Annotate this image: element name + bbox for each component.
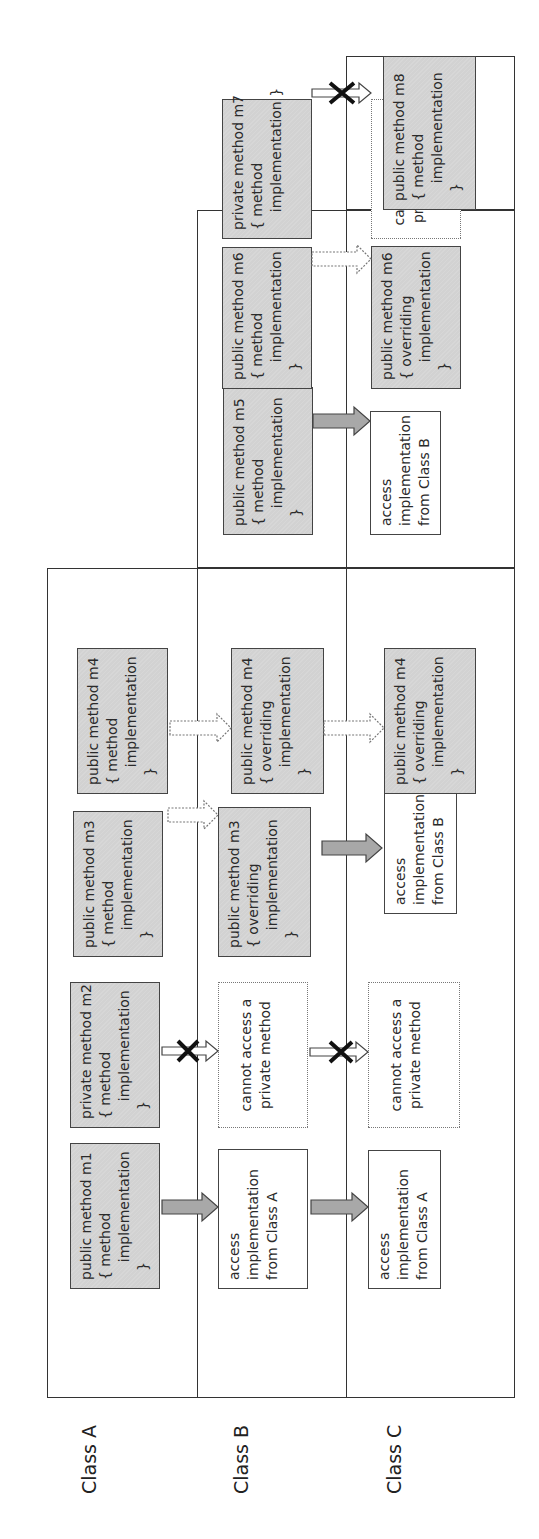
class-a-m1-box: public method m1 { method implementation… [70, 1143, 160, 1289]
solid-arrow-b-c-m1 [311, 1193, 368, 1221]
class-a-m2-box: private method m2 { method implementatio… [70, 982, 160, 1128]
solid-arrow-b-c-m3 [322, 834, 382, 862]
class-c-m8-box: public method m8 { method implementation… [383, 56, 476, 210]
override-arrow-b-c-m4 [324, 714, 384, 742]
class-c-m5-box: access implementation from Class B [370, 411, 441, 535]
class-b-m6-box: public method m6 { method implementation… [222, 247, 312, 389]
class-c-m1-box: access implementation from Class A [368, 1150, 441, 1289]
solid-arrow-a-b-m1 [162, 1193, 218, 1221]
class-b-label: Class B [230, 1425, 252, 1494]
class-a-label: Class A [78, 1425, 100, 1494]
blocked-arrow-a-b-m2 [162, 1037, 218, 1065]
class-c-m2-box: cannot access a private method [368, 982, 460, 1128]
class-inheritance-diagram: Class A Class B Class C public method m1… [0, 0, 539, 1539]
class-a-m4-box: public method m4 { method implementation… [77, 648, 168, 794]
class-b-m1-box: access implementation from Class A [218, 1149, 308, 1289]
override-arrow-b-c-m6 [312, 245, 371, 273]
solid-arrow-b-c-m5 [313, 407, 370, 435]
class-b-m2-box: cannot access a private method [218, 982, 308, 1128]
override-arrow-a-b-m3 [168, 801, 218, 829]
class-c-m3-box: access implementation from Class B [384, 776, 457, 914]
blocked-arrow-b-c-m7 [312, 79, 371, 107]
override-arrow-a-b-m4 [170, 714, 231, 742]
class-b-m5-box: public method m5 { method implementation… [223, 387, 313, 535]
class-c-m4-box: public method m4 { overriding implementa… [384, 648, 476, 794]
class-c-m6-box: public method m6 { overriding implementa… [371, 246, 461, 389]
blocked-arrow-b-c-m2 [310, 1038, 368, 1066]
class-b-m3-box: public method m3 { overriding implementa… [218, 807, 311, 957]
class-c-label: Class C [383, 1425, 405, 1494]
class-b-m7-box: private method m7 { method implementatio… [222, 99, 312, 239]
class-b-m4-box: public method m4 { overriding implementa… [231, 648, 324, 794]
class-a-m3-box: public method m3 { method implementation… [73, 811, 163, 957]
